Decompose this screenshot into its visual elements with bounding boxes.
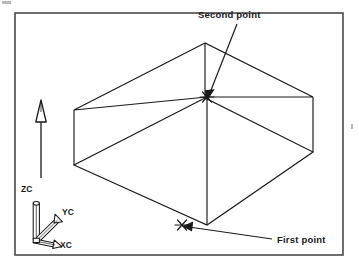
yc-axis-tube-highlight [37,220,57,240]
leader-line-group [184,24,273,239]
first-point-label: First point [277,234,326,245]
yc-axis-label: YC [62,207,74,217]
wcs-coordinate-triad [33,201,62,248]
block-bottom-face-edges [74,98,313,225]
second-point-leader-line [210,24,238,94]
second-point-label: Second point [198,9,261,20]
zc-axis-tube-cap [33,201,39,205]
figure-container: Second point First point [0,0,359,268]
block-top-face-edges [74,43,313,110]
xc-axis-label: XC [60,240,72,250]
view-direction-arrow [36,100,46,178]
diagram-canvas: Second point First point [0,0,359,268]
point-marker-group [175,92,214,230]
second-point-leader-arrowhead [206,90,214,99]
triad-origin-joint [33,238,39,242]
isometric-block [74,43,313,225]
first-point-leader-arrowhead [184,223,193,231]
first-point-leader-line [189,227,272,239]
zc-axis [33,201,39,239]
figure-border [15,13,343,255]
zc-axis-label: ZC [21,184,33,194]
